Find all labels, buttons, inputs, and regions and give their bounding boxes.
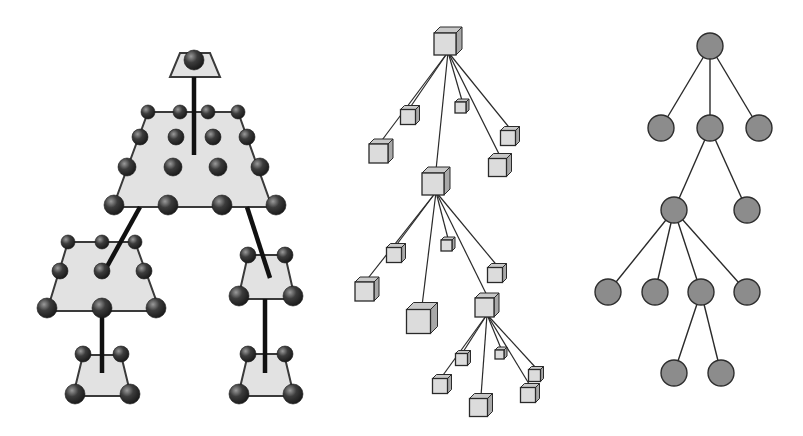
- cube-front-face: [407, 310, 431, 334]
- sphere-node: [277, 346, 293, 362]
- box-tree-diagram: [355, 27, 544, 417]
- cube-node: [407, 303, 438, 334]
- sphere-node: [251, 158, 269, 176]
- tree-edge: [487, 315, 501, 349]
- sphere-node: [37, 298, 57, 318]
- tree-edge: [487, 315, 536, 369]
- sphere-node: [266, 195, 286, 215]
- sphere-node: [164, 158, 182, 176]
- sphere-node: [118, 158, 136, 176]
- sphere-node: [240, 247, 256, 263]
- tree-edge: [487, 315, 530, 386]
- sphere-node: [283, 384, 303, 404]
- sphere-node: [212, 195, 232, 215]
- sphere-node: [65, 384, 85, 404]
- sphere-node: [113, 346, 129, 362]
- cube-front-face: [470, 399, 488, 417]
- circle-tree-diagram: [595, 33, 772, 386]
- sphere-node: [95, 235, 109, 249]
- cube-node: [455, 99, 469, 113]
- tree-edge: [710, 46, 759, 128]
- cube-front-face: [387, 248, 402, 263]
- cube-node: [501, 127, 520, 146]
- cube-front-face: [489, 159, 507, 177]
- circle-node: [661, 197, 687, 223]
- circle-node: [697, 33, 723, 59]
- cube-front-face: [495, 350, 504, 359]
- tree-edge: [442, 315, 487, 377]
- cube-front-face: [521, 388, 536, 403]
- cube-node: [489, 154, 512, 177]
- cube-front-face: [475, 298, 494, 317]
- tree-edge: [661, 46, 710, 128]
- circle-node: [648, 115, 674, 141]
- sphere-node: [277, 247, 293, 263]
- cube-front-face: [529, 370, 541, 382]
- cube-node: [387, 244, 406, 263]
- circle-node: [688, 279, 714, 305]
- circle-node: [595, 279, 621, 305]
- sphere-node: [240, 346, 256, 362]
- plates-hierarchy-diagram: [37, 50, 303, 404]
- sphere-node: [120, 384, 140, 404]
- sphere-node: [239, 129, 255, 145]
- tree-edge: [436, 52, 448, 170]
- sphere-node: [201, 105, 215, 119]
- tree-edge: [381, 52, 448, 142]
- cube-front-face: [422, 173, 444, 195]
- diagram-canvas: [0, 0, 803, 436]
- circle-node: [697, 115, 723, 141]
- cube-side-face: [388, 139, 393, 163]
- sphere-node: [229, 286, 249, 306]
- tree-edge: [674, 210, 747, 292]
- sphere-node: [61, 235, 75, 249]
- cube-node: [441, 237, 455, 251]
- circle-node: [746, 115, 772, 141]
- tree-diagrams: [0, 0, 803, 436]
- cube-node: [470, 394, 493, 417]
- circle-node: [734, 197, 760, 223]
- circle-node: [734, 279, 760, 305]
- sphere-node: [173, 105, 187, 119]
- sphere-node: [146, 298, 166, 318]
- sphere-node: [209, 158, 227, 176]
- tree-edge: [422, 192, 436, 306]
- sphere-node: [92, 298, 112, 318]
- sphere-node: [283, 286, 303, 306]
- cube-node: [434, 27, 462, 55]
- sphere-node: [158, 195, 178, 215]
- sphere-node: [168, 129, 184, 145]
- cube-node: [488, 264, 507, 283]
- sphere-node: [94, 263, 110, 279]
- sphere-node: [128, 235, 142, 249]
- cube-node: [456, 351, 471, 366]
- cube-front-face: [456, 354, 468, 366]
- cube-node: [369, 139, 393, 163]
- sphere-node: [136, 263, 152, 279]
- cube-node: [495, 347, 507, 359]
- cube-node: [475, 293, 499, 317]
- cube-front-face: [488, 268, 503, 283]
- sphere-node: [75, 346, 91, 362]
- tree-edge: [481, 315, 487, 397]
- cube-side-face: [374, 277, 379, 301]
- cube-front-face: [501, 131, 516, 146]
- tree-edge: [367, 192, 436, 280]
- cube-node: [355, 277, 379, 301]
- cube-front-face: [369, 144, 388, 163]
- cube-node: [433, 375, 452, 394]
- cube-front-face: [434, 33, 456, 55]
- cube-front-face: [441, 240, 452, 251]
- sphere-node: [229, 384, 249, 404]
- tree-edge: [448, 52, 510, 129]
- cube-node: [521, 384, 540, 403]
- sphere-node: [141, 105, 155, 119]
- circle-node: [661, 360, 687, 386]
- circle-node: [708, 360, 734, 386]
- sphere-node: [205, 129, 221, 145]
- cube-front-face: [433, 379, 448, 394]
- sphere-node: [184, 50, 204, 70]
- sphere-node: [52, 263, 68, 279]
- cube-side-face: [494, 293, 499, 317]
- circle-node: [642, 279, 668, 305]
